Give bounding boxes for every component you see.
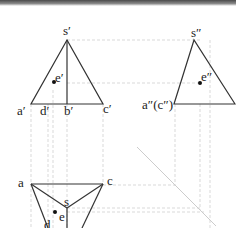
- label-s-double-prime: s″: [191, 26, 201, 39]
- front-view: [31, 40, 103, 104]
- label-c: c: [107, 174, 113, 187]
- label-a: a: [18, 176, 24, 189]
- label-a-prime: a′: [17, 104, 26, 117]
- projection-lines: [31, 40, 210, 228]
- label-e-double-prime: e″: [201, 70, 212, 83]
- label-e-prime: e′: [55, 71, 64, 84]
- label-s-prime: s′: [63, 24, 71, 37]
- label-d: d: [44, 218, 51, 228]
- label-a-c-double-prime: a″(c″): [142, 98, 173, 111]
- label-s: s: [64, 195, 69, 208]
- label-d-prime: d′: [40, 104, 49, 117]
- label-b-prime: b′: [64, 104, 73, 117]
- label-e: e: [59, 210, 65, 223]
- label-c-prime: c′: [103, 102, 112, 115]
- point-e-top: [53, 210, 57, 214]
- miter-line: [137, 147, 216, 226]
